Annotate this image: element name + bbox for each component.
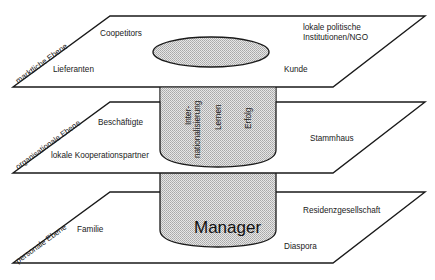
label-kooperationspartner: lokale Kooperationspartner <box>51 151 149 161</box>
label-institutions-line1: lokale politische <box>303 23 361 33</box>
market-ellipse <box>153 37 269 67</box>
label-kunde: Kunde <box>284 65 308 75</box>
label-stammhaus: Stammhaus <box>310 134 354 144</box>
label-lernen: Lernen <box>214 105 223 131</box>
label-lieferanten: Lieferanten <box>53 65 94 75</box>
label-coopetitors: Coopetitors <box>100 29 142 39</box>
label-erfolg: Erfolg <box>244 108 253 129</box>
label-familie: Familie <box>77 225 103 235</box>
label-manager: Manager <box>194 218 261 238</box>
label-residenzgesellschaft: Residenzgesellschaft <box>303 206 380 216</box>
label-diaspora: Diaspora <box>284 242 317 252</box>
three-level-diagram <box>0 0 435 280</box>
label-internationalisierung-2: nationalisierung <box>193 101 202 158</box>
label-internationalisierung-1: Inter- <box>184 106 193 125</box>
label-institutions-line2: Institutionen/NGO <box>303 33 368 43</box>
label-beschaeftigte: Beschäftigte <box>98 118 143 128</box>
